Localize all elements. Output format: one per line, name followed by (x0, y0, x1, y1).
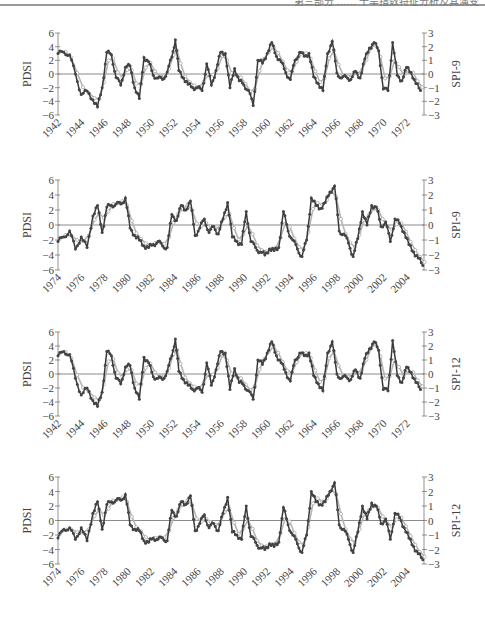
pdsi-marker (169, 58, 172, 61)
pdsi-marker (204, 519, 207, 522)
pdsi-marker (122, 373, 125, 376)
pdsi-marker (279, 531, 282, 534)
pdsi-marker (245, 505, 248, 508)
pdsi-marker (150, 370, 153, 373)
pdsi-marker (266, 52, 269, 55)
pdsi-marker (293, 240, 296, 243)
left-tick-label: −4 (42, 544, 54, 556)
right-tick-label: −3 (428, 410, 440, 422)
pdsi-marker (293, 534, 296, 537)
pdsi-marker (281, 362, 284, 365)
pdsi-marker (282, 210, 285, 213)
left-tick-label: 2 (49, 500, 55, 512)
spi-marker (76, 238, 79, 241)
pdsi-marker (362, 63, 365, 66)
pdsi-marker (179, 371, 182, 374)
pdsi-marker (252, 242, 255, 245)
pdsi-marker (104, 214, 107, 217)
pdsi-marker (301, 551, 304, 554)
pdsi-marker (192, 223, 195, 226)
pdsi-marker (57, 240, 60, 243)
pdsi-marker (225, 208, 228, 211)
pdsi-marker (211, 379, 214, 382)
pdsi-marker (248, 526, 251, 529)
spi-marker (314, 70, 317, 73)
pdsi-marker (94, 503, 97, 506)
spi-marker (423, 261, 426, 264)
pdsi-marker (182, 77, 185, 80)
pdsi-marker (74, 538, 77, 541)
pdsi-marker (277, 541, 280, 544)
pdsi-marker (133, 387, 136, 390)
pdsi-marker (359, 377, 362, 380)
pdsi-marker (76, 535, 79, 538)
pdsi-marker (84, 533, 87, 536)
pdsi-marker (334, 361, 337, 364)
spi-marker (232, 226, 235, 229)
pdsi-marker (102, 522, 105, 525)
pdsi-marker (330, 191, 333, 194)
pdsi-marker (313, 200, 316, 203)
pdsi-marker (417, 385, 420, 388)
pdsi-marker (70, 234, 73, 237)
pdsi-marker (220, 220, 223, 223)
x-tick-label: 1976 (63, 271, 87, 295)
x-tick-label: 1996 (295, 271, 319, 295)
pdsi-marker (296, 248, 299, 251)
pdsi-marker (229, 223, 232, 226)
spi-marker (116, 71, 119, 74)
pdsi-marker (167, 528, 170, 531)
pdsi-marker (249, 390, 252, 393)
pdsi-marker (80, 526, 83, 529)
spi-marker (135, 82, 138, 85)
pdsi-marker (335, 493, 338, 496)
pdsi-marker (207, 367, 210, 370)
pdsi-marker (177, 510, 180, 513)
right-tick-label: −1 (428, 234, 440, 246)
pdsi-marker (355, 71, 358, 74)
spi-marker (239, 377, 242, 380)
spi-marker (316, 497, 319, 500)
pdsi-marker (376, 210, 379, 213)
pdsi-marker (383, 520, 386, 523)
pdsi-marker (225, 503, 228, 506)
left-tick-label: 2 (49, 54, 55, 66)
right-tick-label: 2 (428, 189, 434, 201)
pdsi-marker (130, 229, 133, 232)
pdsi-marker (397, 218, 400, 221)
spi-marker (383, 377, 386, 380)
pdsi-marker (330, 489, 333, 492)
pdsi-marker (175, 49, 178, 52)
pdsi-marker (94, 102, 97, 105)
pdsi-marker (329, 344, 332, 347)
pdsi-marker (119, 382, 122, 385)
pdsi-marker (275, 55, 278, 58)
pdsi-marker (320, 386, 323, 389)
pdsi-marker (111, 63, 114, 66)
pdsi-marker (57, 536, 60, 539)
pdsi-marker (147, 541, 150, 544)
pdsi-marker (403, 231, 406, 234)
pdsi-marker (331, 340, 334, 343)
pdsi-marker (102, 225, 105, 228)
pdsi-marker (176, 357, 179, 360)
spi-marker (232, 521, 235, 524)
pdsi-marker (84, 240, 87, 243)
pdsi-marker (380, 376, 383, 379)
pdsi-marker (195, 529, 198, 532)
chart-panel-2: 6420−2−4−63210−1−2−3PDSISPI-919741976197… (0, 170, 485, 315)
pdsi-marker (233, 67, 236, 70)
pdsi-marker (129, 364, 132, 367)
pdsi-marker (217, 529, 220, 532)
pdsi-marker (86, 90, 89, 93)
pdsi-marker (235, 534, 238, 537)
pdsi-marker (208, 526, 211, 529)
pdsi-marker (389, 538, 392, 541)
pdsi-marker (266, 546, 269, 549)
x-tick-label: 1962 (272, 417, 296, 441)
x-tick-label: 1972 (388, 417, 412, 441)
left-tick-label: −2 (42, 529, 54, 541)
pdsi-marker (175, 219, 178, 222)
pdsi-marker (264, 57, 267, 60)
pdsi-marker (104, 511, 107, 514)
